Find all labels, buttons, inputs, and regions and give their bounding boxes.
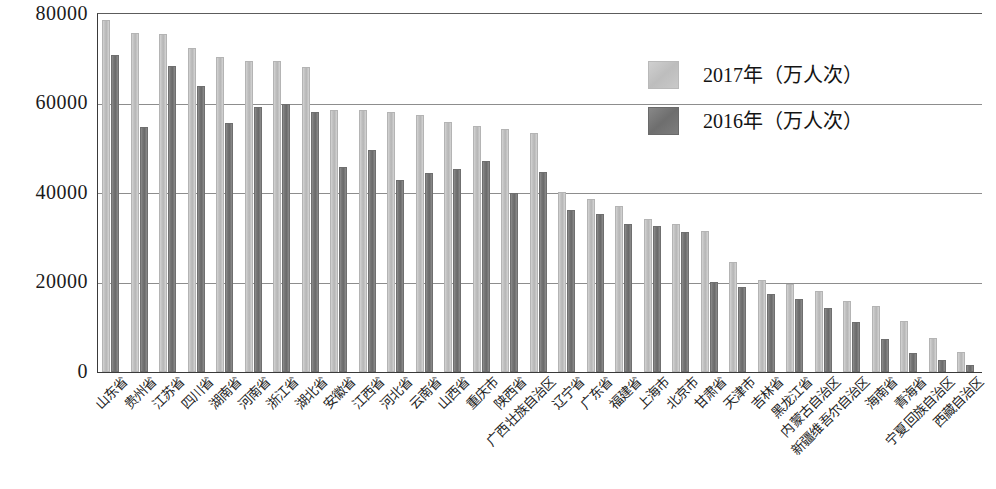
- legend-item-2017: 2017年（万人次）: [648, 52, 958, 98]
- bar-group: [613, 14, 642, 372]
- bar-2017: [216, 57, 224, 372]
- legend-label-2016: 2016年（万人次）: [703, 110, 863, 132]
- bar-2017: [843, 301, 851, 372]
- legend-swatch-2016-icon: [648, 107, 679, 135]
- bar-2016: [567, 210, 575, 372]
- bar-2016: [852, 322, 860, 372]
- bar-2016: [795, 299, 803, 372]
- bar-group: [528, 14, 557, 372]
- bar-2017: [929, 338, 937, 372]
- legend-label-2017: 2017年（万人次）: [703, 64, 863, 86]
- bar-group: [100, 14, 129, 372]
- bar-2017: [302, 67, 310, 372]
- bar-2017: [900, 321, 908, 372]
- bar-group: [186, 14, 215, 372]
- bar-2016: [453, 169, 461, 372]
- bar-2016: [881, 339, 889, 372]
- y-tick-label-40000: 40000: [4, 182, 88, 202]
- bar-2016: [767, 294, 775, 372]
- bar-group: [243, 14, 272, 372]
- bar-2017: [758, 280, 766, 372]
- bar-group: [499, 14, 528, 372]
- bar-group: [129, 14, 158, 372]
- bar-2017: [644, 219, 652, 372]
- y-tick-label-60000: 60000: [4, 92, 88, 112]
- bar-group: [442, 14, 471, 372]
- bar-2016: [539, 172, 547, 372]
- bar-2017: [245, 61, 253, 372]
- bar-2016: [510, 193, 518, 372]
- bar-2016: [140, 127, 148, 372]
- bar-2017: [672, 224, 680, 372]
- bar-2017: [957, 352, 965, 372]
- bar-group: [214, 14, 243, 372]
- bar-2016: [596, 214, 604, 372]
- bar-group: [271, 14, 300, 372]
- bar-2017: [872, 306, 880, 372]
- bar-2017: [188, 48, 196, 372]
- bar-2017: [786, 284, 794, 372]
- bar-2016: [710, 282, 718, 372]
- bar-2016: [966, 365, 974, 372]
- bar-2017: [387, 112, 395, 372]
- bar-2016: [168, 66, 176, 372]
- bar-chart: 80000 60000 40000 20000 0 2017年（万人次） 201…: [0, 0, 996, 489]
- bar-group: [385, 14, 414, 372]
- bar-group: [585, 14, 614, 372]
- legend-swatch-2017-icon: [648, 61, 679, 89]
- bar-2017: [131, 33, 139, 372]
- bar-2016: [624, 224, 632, 372]
- bar-2016: [909, 353, 917, 372]
- bar-2016: [311, 112, 319, 372]
- y-axis: 80000 60000 40000 20000 0: [0, 0, 88, 489]
- bar-2016: [938, 360, 946, 372]
- bar-2017: [815, 291, 823, 372]
- bar-2017: [501, 129, 509, 372]
- bar-group: [955, 14, 984, 372]
- bar-2016: [339, 167, 347, 372]
- y-tick-label-80000: 80000: [4, 3, 88, 23]
- bar-2017: [473, 126, 481, 372]
- bar-2017: [729, 262, 737, 372]
- bar-2016: [824, 308, 832, 372]
- bar-2016: [681, 232, 689, 372]
- bar-2017: [615, 206, 623, 372]
- legend: 2017年（万人次） 2016年（万人次）: [648, 52, 958, 144]
- bar-2016: [225, 123, 233, 372]
- bar-2017: [558, 192, 566, 372]
- bar-2016: [111, 55, 119, 372]
- bar-2016: [425, 173, 433, 372]
- bar-2017: [587, 199, 595, 372]
- bar-2016: [396, 180, 404, 372]
- y-tick-label-20000: 20000: [4, 271, 88, 291]
- bar-2016: [254, 107, 262, 372]
- bar-2017: [530, 133, 538, 372]
- legend-item-2016: 2016年（万人次）: [648, 98, 958, 144]
- bar-2016: [282, 104, 290, 372]
- bar-2016: [197, 86, 205, 372]
- bar-group: [556, 14, 585, 372]
- bar-2016: [653, 226, 661, 372]
- bar-2017: [102, 20, 110, 372]
- bar-group: [157, 14, 186, 372]
- bar-2017: [273, 61, 281, 372]
- bar-2017: [330, 110, 338, 372]
- bar-group: [328, 14, 357, 372]
- bar-group: [414, 14, 443, 372]
- bar-group: [471, 14, 500, 372]
- y-tick-label-0: 0: [4, 361, 88, 381]
- bar-2017: [359, 110, 367, 372]
- bar-2016: [368, 150, 376, 372]
- bar-group: [357, 14, 386, 372]
- x-axis-label: 山东省: [93, 374, 131, 412]
- bar-2017: [701, 231, 709, 372]
- x-axis-labels: 山东省贵州省江苏省四川省湖南省河南省浙江省湖北省安徽省江西省河北省云南省山西省重…: [97, 374, 987, 489]
- bar-group: [300, 14, 329, 372]
- bar-2016: [738, 287, 746, 372]
- bar-2017: [444, 122, 452, 372]
- bar-2017: [416, 115, 424, 372]
- bar-2016: [482, 161, 490, 372]
- bar-2017: [159, 34, 167, 372]
